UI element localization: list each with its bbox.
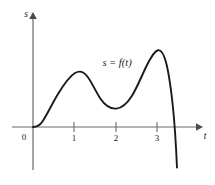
x-tick-label-2: 2 — [114, 133, 119, 143]
x-tick-label-3: 3 — [155, 133, 160, 143]
x-tick-label-1: 1 — [72, 133, 77, 143]
s-axis-label: s — [24, 9, 28, 19]
graph-canvas: 1 2 3 0 s t s = f(t) — [0, 0, 215, 185]
figure-container: 1 2 3 0 s t s = f(t) — [0, 0, 215, 185]
t-axis-label: t — [204, 131, 207, 141]
s-axis-arrowhead — [29, 12, 37, 19]
origin-label: 0 — [22, 132, 27, 142]
t-axis-arrowhead — [196, 123, 203, 131]
curve-equation-label: s = f(t) — [102, 57, 132, 69]
